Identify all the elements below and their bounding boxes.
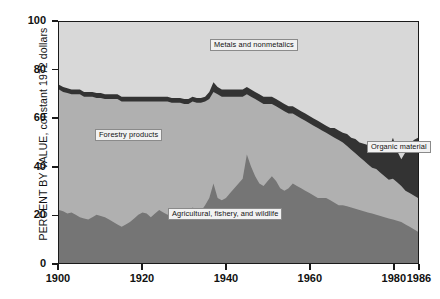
chart-figure: PERCENT BY VALUE, constant 1972 dollars … [0, 0, 440, 299]
plot-area [58, 21, 419, 264]
series-label-organic: Organic material [367, 141, 431, 153]
x-tick-label-1920: 1920 [118, 272, 166, 284]
y-tick-label-60: 60 [16, 111, 46, 123]
y-tick-label-40: 40 [16, 160, 46, 172]
series-label-forestry: Forestry products [95, 129, 162, 141]
x-tick-label-1940: 1940 [202, 272, 250, 284]
series-label-agricultural: Agricultural, fishery, and wildlife [168, 208, 282, 220]
x-tick-mark-1960 [309, 264, 311, 270]
x-tick-mark-1900 [57, 264, 59, 270]
y-tick-label-0: 0 [16, 257, 46, 269]
y-tick-label-80: 80 [16, 63, 46, 75]
x-tick-mark-1980 [393, 264, 395, 270]
y-tick-label-20: 20 [16, 208, 46, 220]
y-axis-title: PERCENT BY VALUE, constant 1972 dollars [37, 10, 53, 258]
stacked-area-series [59, 22, 418, 263]
x-tick-label-1960: 1960 [286, 272, 334, 284]
x-tick-mark-1986 [418, 264, 420, 270]
series-label-metals: Metals and nonmetalics [210, 39, 298, 51]
x-tick-label-1986: 1986 [395, 272, 440, 284]
x-tick-label-1900: 1900 [34, 272, 82, 284]
x-tick-mark-1920 [141, 264, 143, 270]
y-tick-label-100: 100 [16, 14, 46, 26]
x-tick-mark-1940 [225, 264, 227, 270]
